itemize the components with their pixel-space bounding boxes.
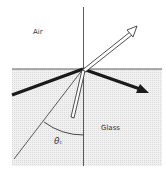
diagram-canvas — [0, 0, 166, 174]
air-label: Air — [33, 28, 43, 36]
glass-region — [12, 69, 162, 166]
theta-label: θc — [54, 136, 62, 146]
critical-angle-diagram: Air Glass θc — [0, 0, 166, 174]
theta-subscript: c — [60, 139, 63, 145]
refracted-ray — [81, 32, 132, 73]
glass-label: Glass — [101, 124, 120, 132]
